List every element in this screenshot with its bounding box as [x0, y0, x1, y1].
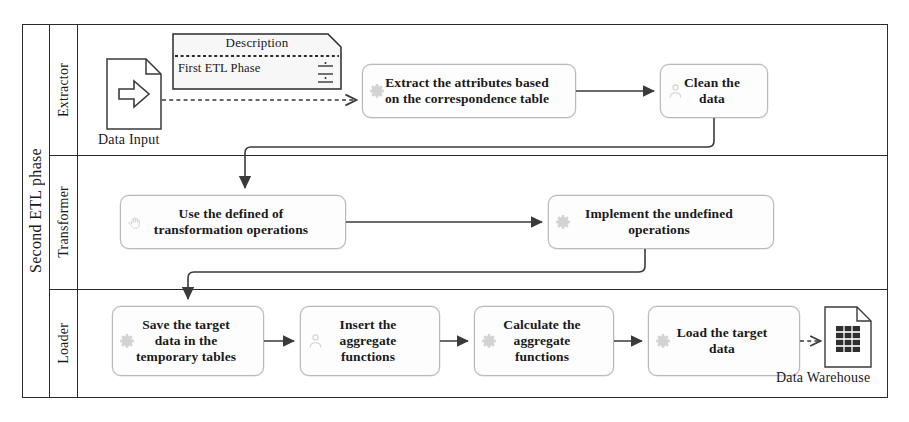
task-line: Insert the — [340, 317, 397, 332]
document-table-icon — [824, 306, 872, 368]
task-clean-data[interactable]: Clean the data — [660, 64, 768, 118]
task-line: Extract the attributes based — [385, 75, 549, 90]
lane-header-transformer: Transformer — [50, 155, 78, 289]
data-object-label-data-warehouse: Data Warehouse — [776, 370, 870, 386]
lane-label-extractor: Extractor — [56, 63, 72, 117]
data-object-data-input: Data Input — [106, 58, 162, 130]
lane-divider-extractor-transformer — [50, 155, 888, 156]
task-use-defined-operations[interactable]: Use the defined of transformation operat… — [120, 195, 346, 249]
pool-label-text: Second ETL phase — [27, 148, 45, 273]
task-label-extract-attributes: Extract the attributes based on the corr… — [363, 75, 575, 107]
task-line: temporary tables — [136, 349, 236, 364]
person-icon — [667, 83, 684, 100]
lane-header-loader: Loader — [50, 289, 78, 398]
task-implement-undefined-operations[interactable]: Implement the undefined operations — [548, 195, 774, 249]
gear-icon — [555, 214, 572, 231]
gear-icon — [119, 333, 136, 350]
data-object-data-warehouse: Data Warehouse — [824, 306, 872, 368]
gear-icon — [481, 333, 498, 350]
lane-label-loader: Loader — [56, 323, 72, 364]
task-load-target-data[interactable]: Load the target data — [648, 306, 800, 376]
task-line: Use the defined of — [179, 206, 284, 221]
task-line: transformation operations — [154, 222, 308, 237]
task-line: aggregate — [340, 333, 397, 348]
task-line: Implement the undefined — [585, 206, 733, 221]
task-line: Save the target — [142, 317, 230, 332]
task-line: functions — [515, 349, 569, 364]
task-calculate-aggregate-functions[interactable]: Calculate the aggregate functions — [474, 306, 614, 376]
task-line: Calculate the — [503, 317, 580, 332]
task-label-implement-undefined-operations: Implement the undefined operations — [549, 206, 773, 238]
text-annotation: Description First ETL Phase — [172, 33, 342, 90]
task-label-use-defined-operations: Use the defined of transformation operat… — [121, 206, 345, 238]
document-arrow-icon — [106, 58, 162, 130]
task-line: data — [699, 91, 725, 106]
task-line: operations — [628, 222, 690, 237]
task-line: on the correspondence table — [385, 91, 549, 106]
annotation-title: Description — [172, 35, 342, 51]
table-grid-glyph — [836, 326, 860, 352]
person-icon — [307, 333, 324, 350]
annotation-body: First ETL Phase — [178, 61, 260, 76]
task-extract-attributes[interactable]: Extract the attributes based on the corr… — [362, 64, 576, 118]
pool-label: Second ETL phase — [22, 24, 50, 398]
task-line: data — [709, 341, 735, 356]
task-line: aggregate — [514, 333, 571, 348]
task-line: data in the — [155, 333, 218, 348]
lane-divider-transformer-loader — [50, 289, 888, 290]
gear-icon — [655, 333, 672, 350]
task-insert-aggregate-functions[interactable]: Insert the aggregate functions — [300, 306, 440, 376]
lane-label-transformer: Transformer — [56, 186, 72, 258]
data-object-label-data-input: Data Input — [98, 132, 159, 148]
hand-icon — [127, 214, 144, 231]
task-save-target-data[interactable]: Save the target data in the temporary ta… — [112, 306, 264, 376]
lane-header-extractor: Extractor — [50, 24, 78, 155]
gear-icon — [369, 83, 386, 100]
task-line: Load the target — [677, 325, 768, 340]
task-line: functions — [341, 349, 395, 364]
task-line: Clean the — [684, 75, 740, 90]
diagram-canvas: Second ETL phase Extractor Transformer L… — [0, 0, 909, 422]
